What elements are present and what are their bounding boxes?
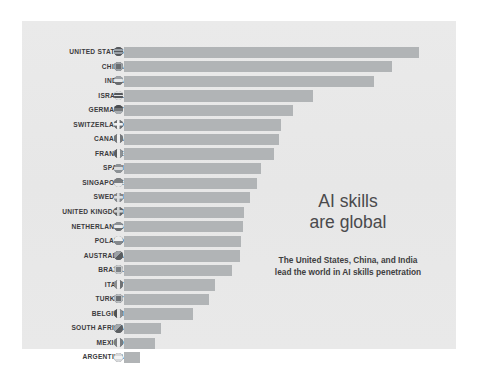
bar-row: TURKEY xyxy=(22,292,456,307)
flag-icon-belgium xyxy=(114,309,123,318)
bar xyxy=(124,192,250,203)
bar-track xyxy=(124,279,456,290)
flag-icon-israel xyxy=(114,91,123,100)
chart-callout: AI skills are global The United States, … xyxy=(240,191,456,279)
bar-row: CHINA xyxy=(22,60,456,75)
bar xyxy=(124,236,241,247)
bar-row: MEXICO xyxy=(22,336,456,351)
bar xyxy=(124,323,161,334)
flag-icon-france xyxy=(114,149,123,158)
bar-track xyxy=(124,119,456,130)
bar xyxy=(124,134,279,145)
callout-title: AI skills are global xyxy=(240,191,456,233)
bar-track xyxy=(124,308,456,319)
flag-icon-glyph xyxy=(114,105,123,114)
bar-row: UNITED STATES xyxy=(22,45,456,60)
flag-icon-india xyxy=(114,76,123,85)
bar-row: SPAIN xyxy=(22,161,456,176)
bar-track xyxy=(124,294,456,305)
bar-row: BELGIUM xyxy=(22,307,456,322)
bar-row: GERMANY xyxy=(22,103,456,118)
flag-icon-italy xyxy=(114,280,123,289)
flag-icon-glyph xyxy=(114,120,123,129)
flag-icon-glyph xyxy=(114,164,123,173)
bar-track xyxy=(124,352,456,363)
bar-row: SWITZERLAND xyxy=(22,118,456,133)
bar-row: INDIA xyxy=(22,74,456,89)
flag-icon-glyph xyxy=(114,149,123,158)
bar xyxy=(124,105,293,116)
flag-icon-glyph xyxy=(114,178,123,187)
flag-icon-brazil xyxy=(114,265,123,274)
flag-icon-singapore xyxy=(114,178,123,187)
bar-track xyxy=(124,178,456,189)
bar-track xyxy=(124,323,456,334)
bar xyxy=(124,90,313,101)
bar xyxy=(124,163,261,174)
flag-icon-netherlands xyxy=(114,222,123,231)
chart-figure: UNITED STATESCHINAINDIAISRAELGERMANYSWIT… xyxy=(0,0,479,369)
bar-track xyxy=(124,61,456,72)
flag-icon-sweden xyxy=(114,193,123,202)
bar xyxy=(124,250,240,261)
flag-icon-mexico xyxy=(114,338,123,347)
flag-icon-glyph xyxy=(114,324,123,333)
callout-subtitle-line-2: lead the world in AI skills penetration xyxy=(240,266,456,278)
bar-track xyxy=(124,76,456,87)
bar xyxy=(124,178,257,189)
callout-subtitle: The United States, China, and India lead… xyxy=(240,254,456,279)
flag-icon-glyph xyxy=(114,294,123,303)
bar-track xyxy=(124,134,456,145)
bar xyxy=(124,47,419,58)
flag-icon-australia xyxy=(114,251,123,260)
callout-title-line-2: are global xyxy=(240,212,456,233)
flag-icon-switzerland xyxy=(114,120,123,129)
bar-track xyxy=(124,90,456,101)
chart-panel: UNITED STATESCHINAINDIAISRAELGERMANYSWIT… xyxy=(22,21,456,349)
bar-row: ITALY xyxy=(22,278,456,293)
bar-row: SINGAPORE xyxy=(22,176,456,191)
bar xyxy=(124,76,374,87)
flag-icon-glyph xyxy=(114,76,123,85)
bar-track xyxy=(124,163,456,174)
bar-track xyxy=(124,105,456,116)
bar xyxy=(124,148,274,159)
flag-icon-united-states xyxy=(114,47,123,56)
flag-icon-united-kingdom xyxy=(114,207,123,216)
bar-row: CANADA xyxy=(22,132,456,147)
flag-icon-glyph xyxy=(114,338,123,347)
bar xyxy=(124,61,392,72)
bar-row: SOUTH AFRICA xyxy=(22,321,456,336)
callout-title-line-1: AI skills xyxy=(240,191,456,212)
flag-icon-glyph xyxy=(114,353,123,362)
bar xyxy=(124,119,281,130)
bar-track xyxy=(124,338,456,349)
bar xyxy=(124,265,232,276)
flag-icon-glyph xyxy=(114,193,123,202)
bar xyxy=(124,338,155,349)
bar-track xyxy=(124,148,456,159)
bar xyxy=(124,279,215,290)
flag-icon-glyph xyxy=(114,309,123,318)
flag-icon-glyph xyxy=(114,207,123,216)
flag-icon-poland xyxy=(114,236,123,245)
flag-icon-glyph xyxy=(114,91,123,100)
callout-subtitle-line-1: The United States, China, and India xyxy=(240,254,456,266)
flag-icon-turkey xyxy=(114,294,123,303)
flag-icon-south-africa xyxy=(114,324,123,333)
flag-icon-glyph xyxy=(114,47,123,56)
bar-row: FRANCE xyxy=(22,147,456,162)
flag-icon-glyph xyxy=(114,280,123,289)
flag-icon-glyph xyxy=(114,265,123,274)
flag-icon-argentina xyxy=(114,353,123,362)
bar xyxy=(124,308,193,319)
bar xyxy=(124,294,209,305)
flag-icon-glyph xyxy=(114,222,123,231)
bar xyxy=(124,221,243,232)
flag-icon-glyph xyxy=(114,251,123,260)
flag-icon-germany xyxy=(114,105,123,114)
flag-icon-china xyxy=(114,62,123,71)
flag-icon-glyph xyxy=(114,62,123,71)
flag-icon-canada xyxy=(114,134,123,143)
flag-icon-glyph xyxy=(114,236,123,245)
